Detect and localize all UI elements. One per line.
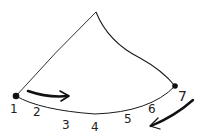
- right-endpoint-dot: [172, 83, 178, 89]
- label-7: 7: [178, 88, 187, 104]
- cone-diagram: 1 2 3 4 5 6 7: [0, 0, 207, 138]
- cone-left-edge: [16, 12, 96, 96]
- left-endpoint-dot: [13, 93, 20, 100]
- label-2: 2: [33, 105, 41, 119]
- label-4: 4: [91, 120, 99, 134]
- label-1: 1: [10, 102, 18, 116]
- label-5: 5: [124, 112, 132, 126]
- top-arrow-icon: [28, 91, 69, 101]
- bottom-right-arrow-icon: [150, 100, 193, 129]
- cone-right-edge: [96, 12, 175, 86]
- label-3: 3: [62, 118, 70, 132]
- label-6: 6: [148, 102, 156, 116]
